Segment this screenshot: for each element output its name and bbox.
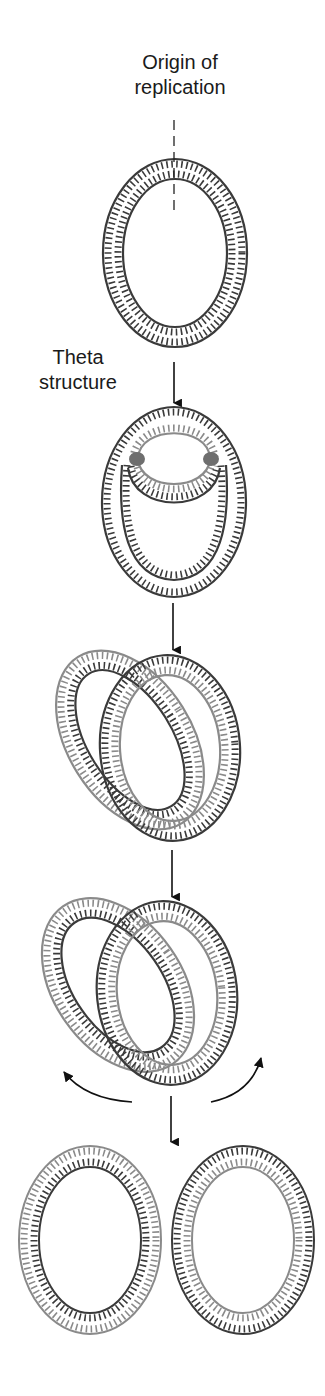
stage-circular-dna xyxy=(103,120,247,347)
inner-strand xyxy=(118,174,232,332)
new-strand-lower xyxy=(128,460,220,503)
front-ring xyxy=(94,650,247,845)
stage-catenated-rings-2 xyxy=(11,870,247,1101)
stage-theta-structure xyxy=(102,407,246,597)
parental-inner-strand xyxy=(121,465,227,580)
stage-catenated-rings-1 xyxy=(25,624,246,856)
replication-fork-right xyxy=(203,452,219,466)
replication-diagram xyxy=(0,0,325,1396)
daughter-circle-right xyxy=(172,1146,314,1334)
new-strand-upper xyxy=(133,428,215,458)
curved-arrow-left xyxy=(64,1072,132,1102)
curved-arrow-right xyxy=(211,1058,261,1102)
daughter-circle-left xyxy=(19,1146,161,1334)
stage-separated-rings xyxy=(19,1146,314,1334)
outer-strand xyxy=(103,159,247,347)
replication-fork-left xyxy=(129,452,145,466)
